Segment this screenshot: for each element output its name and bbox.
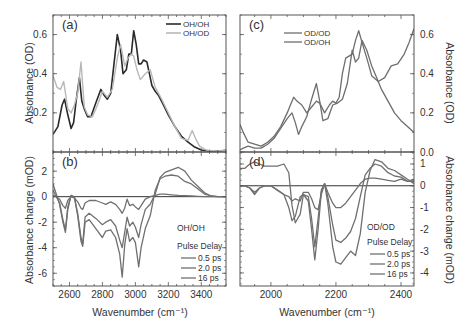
x-tick-label: 2600 (58, 289, 81, 300)
x-tick-label: 2200 (325, 289, 348, 300)
y-axis-label-change-right: Absorbance change (mOD) (444, 156, 456, 284)
sample-annotation: OH/OH (177, 223, 205, 233)
panel-label: (c) (249, 17, 264, 32)
legend-item: 16 ps (387, 269, 408, 279)
y-tick-label: 0 (420, 180, 426, 191)
y-tick-label: 0.6 (33, 29, 47, 40)
legend-item: 2.0 ps (198, 263, 221, 273)
y-tick-label: -3 (420, 246, 429, 257)
y-tick-label: 0.0 (420, 147, 434, 158)
y-tick-label: 1 (420, 158, 426, 169)
y-tick-label: 0 (41, 191, 47, 202)
x-tick-label: 3200 (157, 289, 180, 300)
y-axis-label-absorbance-right: Absorbance (OD) (444, 42, 456, 124)
x-tick-label: 2800 (91, 289, 114, 300)
y-tick-label: -6 (38, 268, 47, 279)
y-tick-label: -2 (420, 224, 429, 235)
panel-label: (d) (249, 154, 265, 169)
panel-c-absorbance-od: 0.00.20.40.6(c)OD/ODOD/OH (240, 15, 434, 158)
y-tick-label: -1 (420, 202, 429, 213)
series-2-0-ps (240, 164, 414, 247)
y-tick-label: 0.6 (420, 29, 434, 40)
y-tick-label: 0.2 (420, 107, 434, 118)
legend-item: OD/OD (304, 29, 330, 38)
x-tick-label: 2000 (260, 289, 283, 300)
legend-item: 16 ps (198, 273, 219, 283)
y-tick-label: 0.4 (33, 68, 47, 79)
y-tick-label: -2 (38, 217, 47, 228)
legend-title: Pulse Delay (367, 237, 413, 247)
x-tick-label: 3400 (190, 289, 213, 300)
panel-label: (b) (62, 154, 78, 169)
legend-item: OD/OH (304, 38, 330, 47)
x-axis-label-left: Wavenumber (cm⁻¹) (92, 306, 187, 318)
series-oh-od (53, 44, 226, 151)
y-tick-label: 0.2 (33, 107, 47, 118)
legend-item: 0.5 ps (387, 249, 410, 259)
legend-item: OH/OH (183, 20, 209, 29)
legend-item: 0.5 ps (198, 253, 221, 263)
figure: 0.20.40.6(a)OH/OHOH/OD 26002800300032003… (0, 0, 465, 328)
x-tick-label: 2400 (390, 289, 413, 300)
panel-d-absorbance-change-od: 200022002400-4-3-2-101(d)OD/ODPulse Dela… (240, 152, 429, 300)
panel-label: (a) (62, 17, 78, 32)
y-axis-label-change-left: Absorbance change (mOD) (23, 156, 35, 284)
x-tick-label: 3000 (124, 289, 147, 300)
legend-item: OH/OD (183, 29, 209, 38)
series-group (53, 31, 226, 152)
y-tick-label: -4 (38, 242, 47, 253)
panel-a-absorbance-oh: 0.20.40.6(a)OH/OHOH/OD (33, 15, 226, 152)
legend-title: Pulse Delay (177, 241, 223, 251)
y-tick-label: -4 (420, 267, 429, 278)
x-axis-label-right: Wavenumber (cm⁻¹) (279, 306, 374, 318)
legend-item: 2.0 ps (387, 259, 410, 269)
series-oh-oh (53, 31, 226, 152)
panel-b-absorbance-change-oh: 26002800300032003400-6-4-202(b)OH/OHPuls… (38, 152, 226, 300)
y-tick-label: 0.4 (420, 68, 434, 79)
sample-annotation: OD/OD (367, 222, 395, 232)
y-tick-label: 2 (41, 166, 47, 177)
y-axis-label-absorbance-left: Absorbance (OD) (23, 42, 35, 124)
series-od-oh (240, 40, 414, 150)
